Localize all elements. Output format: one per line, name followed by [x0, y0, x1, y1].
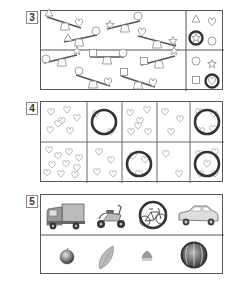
- option-circle: [208, 37, 216, 45]
- question-4-panel: [40, 101, 223, 182]
- heart-cell-r1c5: [195, 109, 219, 135]
- option-star: [192, 34, 201, 42]
- leaf-icon: [99, 246, 113, 269]
- option-star: [208, 60, 217, 68]
- question-3-panel: [40, 10, 223, 90]
- answer-options-row-2: [192, 57, 219, 88]
- seesaw-6: [90, 49, 128, 64]
- heart-cell-r1c4: [162, 109, 183, 136]
- answer-ring: [92, 110, 116, 134]
- option-heart: [208, 77, 215, 85]
- seesaw-9: [121, 69, 157, 90]
- heart-cell-r2c2: [94, 149, 116, 178]
- option-triangle: [192, 15, 200, 22]
- heart-cell-r2c4: [163, 151, 182, 178]
- question-5-panel: [40, 194, 223, 274]
- heart-cell-r1c2: [92, 110, 116, 135]
- option-square: [193, 77, 200, 84]
- seesaw-illustration: [41, 11, 224, 91]
- option-heart: [208, 18, 215, 26]
- seesaw-5: [42, 47, 81, 67]
- seesaw-1: [45, 9, 83, 30]
- question-number-4: 4: [26, 102, 38, 115]
- scooter-icon: [97, 205, 125, 228]
- heart-cell-r2c3: [127, 152, 151, 177]
- heart-cell-r2c5: [195, 149, 219, 178]
- seesaw-4: [138, 28, 177, 48]
- apple-icon: [60, 248, 74, 264]
- seesaw-2: [106, 12, 142, 32]
- odd-one-out-illustration: [41, 195, 224, 275]
- truck-icon: [47, 204, 85, 229]
- heart-cell-r1c1: [47, 107, 80, 135]
- watermelon-icon: [182, 243, 207, 268]
- bicycle-icon: [140, 202, 166, 228]
- heart-cell-r1c3: [127, 107, 151, 136]
- answer-options-row-1: [190, 15, 217, 45]
- question-number-5: 5: [26, 195, 38, 208]
- heart-cell-r2c1: [44, 147, 82, 179]
- question-number-3: 3: [26, 11, 38, 24]
- option-circle: [192, 57, 200, 65]
- seesaw-8: [75, 67, 112, 88]
- heart-grid: [41, 102, 224, 183]
- answer-ring: [195, 110, 219, 134]
- chestnut-icon: [142, 251, 152, 261]
- car-icon: [179, 206, 218, 225]
- answer-ring: [140, 202, 166, 228]
